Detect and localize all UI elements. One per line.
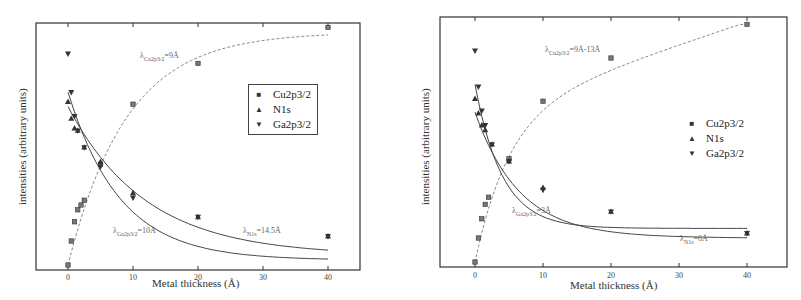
square-marker-icon: ■ [688,116,696,131]
data-point [66,263,70,267]
x-tick: 10 [129,273,137,282]
legend-item-ga: ▼Ga2p3/2 [688,146,744,161]
legend: ■Cu2p3/2 ▲N1s ▼Ga2p3/2 [688,116,744,161]
x-tick: 20 [194,273,202,282]
annotation-n1s-lambda: λN1s=6Å [680,234,708,245]
data-point [196,61,200,65]
data-point [79,203,83,207]
data-point [486,195,490,199]
x-tick: 30 [259,273,267,282]
data-point [745,22,749,26]
data-point [541,99,545,103]
y-axis-label: intensities (arbitrary units) [16,88,28,205]
data-point [609,56,613,60]
x-tick: 0 [473,271,477,280]
fit-curve-cu [68,35,328,265]
x-tick: 0 [66,273,70,282]
legend: ■Cu2p3/2 ▲N1s ▼Ga2p3/2 [248,84,318,135]
data-point [325,234,331,239]
annotation-cu-lambda: λCu2p3/2=9Å [140,51,179,62]
data-point [326,25,330,29]
legend-item-ga: ▼Ga2p3/2 [255,117,311,132]
legend-item-n1s: ▲N1s [255,102,311,117]
data-point [195,215,201,220]
annotation-cu-lambda: λCu2p3/2=9Å-13Å [545,45,600,56]
data-point [72,220,76,224]
x-tick: 40 [743,271,751,280]
data-point [69,239,73,243]
legend-item-n1s: ▲N1s [688,131,744,146]
data-point [480,217,484,221]
data-point [540,188,546,193]
data-point [65,52,71,57]
data-point [473,260,477,264]
chart-left: intensities (arbitrary units) Metal thic… [0,0,400,300]
x-tick: 10 [539,271,547,280]
plot-area-left [0,0,400,300]
data-point [608,209,614,214]
data-point [472,49,478,54]
data-point [744,231,750,236]
legend-item-cu: ■Cu2p3/2 [688,116,744,131]
legend-item-cu: ■Cu2p3/2 [255,87,311,102]
chart-right: intensities (arbitrary units) Metal thic… [400,0,801,300]
square-marker-icon: ■ [255,87,263,102]
triangle-down-marker-icon: ▼ [255,117,263,132]
x-tick: 40 [324,273,332,282]
data-point [130,196,136,201]
x-axis-label: Metal thickness (Å) [570,279,657,291]
data-point [76,208,80,212]
triangle-up-marker-icon: ▲ [255,102,263,117]
data-point [82,198,86,202]
annotation-ga-lambda: λGa2p3/2=3Å [512,206,551,217]
triangle-up-marker-icon: ▲ [688,131,696,146]
x-tick: 30 [675,271,683,280]
data-point [483,202,487,206]
data-point [75,128,81,133]
y-axis-label: intensities (arbitrary units) [419,88,431,205]
annotation-n1s-lambda: λN1s=14.5Å [243,226,281,237]
data-point [476,236,480,240]
x-tick: 20 [607,271,615,280]
data-point [81,145,87,150]
data-point [131,102,135,106]
triangle-down-marker-icon: ▼ [688,146,696,161]
annotation-ga-lambda: λGa2p3/2=10Å [113,226,156,237]
